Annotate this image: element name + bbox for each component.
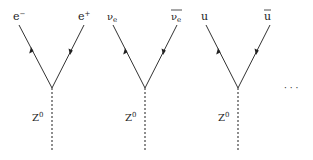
vertex-diagram-3: u u Z0 (201, 10, 271, 152)
fermion-line-left (113, 25, 145, 88)
particle-label-right: νe (171, 11, 181, 24)
fermion-line-right (145, 25, 177, 88)
boson-label: Z0 (32, 111, 43, 123)
particle-label-left: νe (107, 11, 117, 24)
fermion-line-left (206, 25, 238, 88)
particle-label-right: u (264, 10, 271, 23)
boson-label: Z0 (218, 111, 229, 123)
fermion-line-right (238, 25, 270, 88)
particle-label-right: e+ (78, 10, 91, 23)
feynman-diagram: e− e+ Z0 νe νe Z0 u (0, 0, 313, 160)
vertex-diagram-2: νe νe Z0 (107, 10, 182, 152)
particle-label-left: u (201, 10, 208, 23)
particle-label-left: e− (13, 10, 26, 23)
ellipsis: · · · (284, 83, 298, 93)
boson-label: Z0 (125, 111, 136, 123)
vertex-diagram-1: e− e+ Z0 (13, 10, 91, 152)
fermion-line-right (52, 25, 84, 88)
fermion-line-left (19, 25, 52, 88)
